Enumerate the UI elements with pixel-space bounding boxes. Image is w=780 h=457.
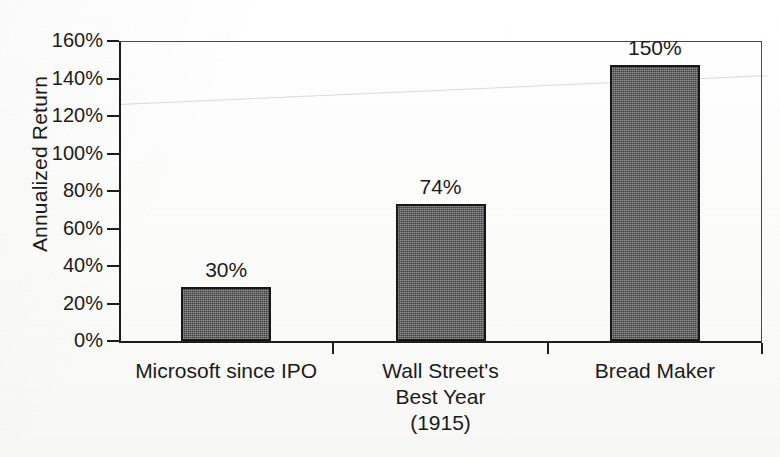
x-tick-mark [547,343,549,354]
y-tick-label: 20% [3,293,103,313]
y-tick-label-wrap: 160% [0,30,103,50]
bar [396,204,486,341]
y-tick-label: 0% [3,330,103,350]
y-tick-mark [107,153,119,155]
bar-value-label: 30% [146,259,306,281]
bar [610,65,700,341]
plot-frame-right [761,41,762,343]
y-tick-mark [107,78,119,80]
y-tick-label-wrap: 0% [0,330,103,350]
y-tick-mark [107,115,119,117]
y-tick-mark [107,340,119,342]
y-tick-label-wrap: 80% [0,180,103,200]
y-tick-mark [107,228,119,230]
category-label: Microsoft since IPO [111,358,341,384]
category-label: Wall Street's Best Year (1915) [326,358,556,436]
y-tick-label-wrap: 100% [0,143,103,163]
bar-chart-figure: Annualized Return 160%140%120%100%80%60%… [0,0,780,457]
x-tick-mark [761,343,763,354]
y-tick-label: 100% [3,143,103,163]
y-tick-mark [107,190,119,192]
x-tick-mark [332,343,334,354]
y-tick-mark [107,40,119,42]
y-tick-mark [107,303,119,305]
y-tick-label: 60% [3,218,103,238]
category-label: Bread Maker [540,358,770,384]
y-tick-label-wrap: 140% [0,68,103,88]
y-tick-label: 120% [3,105,103,125]
bar-value-label: 74% [361,176,521,198]
y-tick-label: 160% [3,30,103,50]
x-axis-line [119,341,762,343]
y-tick-label: 40% [3,255,103,275]
bar-value-label: 150% [575,37,735,59]
y-tick-label-wrap: 20% [0,293,103,313]
bar [181,287,271,341]
y-tick-label: 80% [3,180,103,200]
y-tick-label-wrap: 60% [0,218,103,238]
y-tick-label: 140% [3,68,103,88]
y-tick-label-wrap: 40% [0,255,103,275]
y-tick-mark [107,265,119,267]
y-axis-line [119,41,121,343]
y-tick-label-wrap: 120% [0,105,103,125]
